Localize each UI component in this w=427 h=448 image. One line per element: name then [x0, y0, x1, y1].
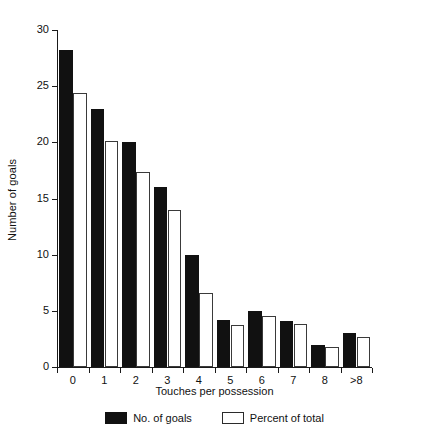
bar-percent [105, 141, 119, 367]
y-tick-label: 15 [23, 192, 49, 204]
y-tick-label: 20 [23, 135, 49, 147]
y-axis-line [57, 30, 58, 368]
bar-goals [59, 50, 73, 367]
y-tick [52, 30, 57, 31]
bar-percent [357, 337, 371, 367]
legend-entry-goals: No. of goals [105, 412, 192, 424]
bar-percent [168, 210, 182, 367]
bar-goals [154, 187, 168, 367]
y-tick-label: 25 [23, 79, 49, 91]
legend-entry-percent: Percent of total [222, 412, 324, 424]
bar-goals [311, 345, 325, 367]
x-tick [278, 368, 279, 373]
legend-label-percent: Percent of total [250, 412, 324, 424]
bar-goals [185, 255, 199, 367]
bar-goals [91, 109, 105, 367]
x-tick [246, 368, 247, 373]
legend-label-goals: No. of goals [133, 412, 192, 424]
bar-goals [280, 321, 294, 367]
y-tick [52, 255, 57, 256]
bar-percent [262, 316, 276, 367]
plot-area: 051015202530 012345678>8 [57, 30, 372, 368]
x-tick [57, 368, 58, 373]
x-tick [183, 368, 184, 373]
bar-goals [248, 311, 262, 367]
bar-percent [325, 347, 339, 367]
y-axis-title: Number of goals [6, 140, 18, 260]
x-tick [341, 368, 342, 373]
legend-swatch-filled-black-square [105, 412, 127, 424]
legend-swatch-open-white-square [222, 412, 244, 424]
bar-goals [343, 333, 357, 367]
x-tick [372, 368, 373, 373]
x-tick [120, 368, 121, 373]
x-axis-title: Touches per possession [57, 385, 372, 397]
chart-legend: No. of goals Percent of total [57, 412, 372, 424]
y-tick-label: 0 [23, 360, 49, 372]
y-tick [52, 199, 57, 200]
x-tick [309, 368, 310, 373]
bar-chart-figure: Number of goals 051015202530 012345678>8… [0, 0, 427, 448]
bar-percent [294, 324, 308, 367]
bar-percent [231, 325, 245, 367]
x-tick [215, 368, 216, 373]
y-tick-label: 30 [23, 23, 49, 35]
x-tick [89, 368, 90, 373]
y-tick [52, 86, 57, 87]
y-tick [52, 142, 57, 143]
y-tick-label: 5 [23, 304, 49, 316]
y-tick [52, 311, 57, 312]
bar-goals [122, 142, 136, 367]
bar-percent [73, 93, 87, 367]
bar-percent [199, 293, 213, 367]
bar-percent [136, 172, 150, 367]
y-tick-label: 10 [23, 248, 49, 260]
x-tick [152, 368, 153, 373]
bar-goals [217, 320, 231, 367]
